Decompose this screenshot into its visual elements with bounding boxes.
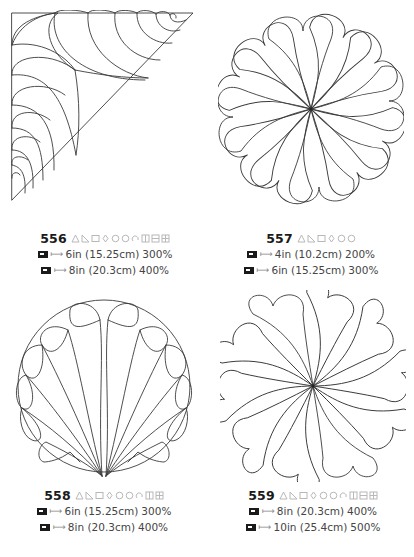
size-label: 6in (15.25cm) [272, 264, 346, 276]
square-icon [95, 491, 104, 500]
size-label: 4in (10.2cm) [275, 248, 342, 260]
square-icon [299, 491, 308, 500]
machine-compatibility-icons [71, 234, 170, 243]
pattern-number: 558 [44, 488, 71, 503]
pattern-557-drawing[interactable] [218, 12, 404, 207]
half-triangle-icon [307, 234, 316, 243]
caption-556: 556 ⟼ 6in (15.25cm) 300% ⟼ 8in (20.3cm) … [10, 230, 200, 278]
sewing-machine-icon [249, 507, 259, 515]
scale-label: 400% [138, 521, 168, 533]
size-option[interactable]: ⟼ 10in (25.4cm) 500% [220, 519, 406, 535]
circle-icon [347, 234, 356, 243]
caption-558: 558 ⟼ 6in (15.25cm) 300% ⟼ 8in (20.3cm) … [8, 487, 200, 535]
pattern-title-row: 558 [8, 487, 200, 503]
scale-label: 500% [350, 521, 380, 533]
size-option[interactable]: ⟼ 6in (15.25cm) 300% [10, 246, 200, 262]
machine-compatibility-icons [75, 491, 164, 500]
grid-icon [349, 491, 358, 500]
rotate-icon [131, 234, 140, 243]
width-arrow-icon: ⟼ [54, 265, 66, 275]
size-option[interactable]: ⟼ 6in (15.25cm) 300% [8, 503, 200, 519]
circle-icon [121, 234, 130, 243]
scale-label: 300% [141, 505, 171, 517]
sewing-machine-icon [40, 523, 50, 531]
machine-compatibility-icons [279, 491, 378, 500]
size-label: 8in (20.3cm) [277, 505, 344, 517]
scale-label: 400% [139, 264, 169, 276]
size-option[interactable]: ⟼ 8in (20.3cm) 400% [10, 262, 200, 278]
size-label: 8in (20.3cm) [69, 264, 136, 276]
pattern-559-drawing[interactable] [220, 290, 406, 482]
sewing-machine-icon [38, 250, 48, 258]
machine-compatibility-icons [297, 234, 356, 243]
grid-icon [161, 234, 170, 243]
circle-icon [125, 491, 134, 500]
width-arrow-icon: ⟼ [260, 249, 272, 259]
circle-icon [111, 234, 120, 243]
circle-icon [329, 491, 338, 500]
size-option[interactable]: ⟼ 4in (10.2cm) 200% [218, 246, 404, 262]
size-label: 6in (15.25cm) [65, 505, 139, 517]
pattern-title-row: 557 [218, 230, 404, 246]
triangle-icon [279, 491, 288, 500]
triangle-icon [297, 234, 306, 243]
width-arrow-icon: ⟼ [51, 249, 63, 259]
diamond-icon [327, 234, 336, 243]
grid-icon [145, 491, 154, 500]
square-icon [91, 234, 100, 243]
square-icon [317, 234, 326, 243]
pattern-title-row: 556 [10, 230, 200, 246]
sewing-machine-icon [244, 266, 254, 274]
pattern-title-row: 559 [220, 487, 406, 503]
width-arrow-icon: ⟼ [259, 522, 271, 532]
size-label: 6in (15.25cm) [66, 248, 140, 260]
circle-icon [337, 234, 346, 243]
sewing-machine-icon [41, 266, 51, 274]
triangle-icon [71, 234, 80, 243]
grid-icon [151, 234, 160, 243]
half-triangle-icon [81, 234, 90, 243]
width-arrow-icon: ⟼ [50, 506, 62, 516]
diamond-icon [101, 234, 110, 243]
caption-559: 559 ⟼ 8in (20.3cm) 400% ⟼ 10in (25.4cm) … [220, 487, 406, 535]
grid-icon [141, 234, 150, 243]
scale-label: 400% [347, 505, 377, 517]
width-arrow-icon: ⟼ [262, 506, 274, 516]
diamond-icon [105, 491, 114, 500]
pattern-556-drawing[interactable] [10, 10, 200, 205]
width-arrow-icon: ⟼ [53, 522, 65, 532]
pattern-number: 559 [248, 488, 275, 503]
size-label: 10in (25.4cm) [274, 521, 348, 533]
grid-icon [369, 491, 378, 500]
size-label: 8in (20.3cm) [68, 521, 135, 533]
rotate-icon [339, 491, 348, 500]
half-triangle-icon [289, 491, 298, 500]
diamond-icon [309, 491, 318, 500]
pattern-558-drawing[interactable] [8, 290, 200, 482]
triangle-icon [75, 491, 84, 500]
sewing-machine-icon [246, 523, 256, 531]
grid-icon [359, 491, 368, 500]
scale-label: 300% [348, 264, 378, 276]
size-option[interactable]: ⟼ 8in (20.3cm) 400% [8, 519, 200, 535]
scale-label: 200% [345, 248, 375, 260]
grid-icon [155, 491, 164, 500]
pattern-number: 557 [266, 231, 293, 246]
size-option[interactable]: ⟼ 8in (20.3cm) 400% [220, 503, 406, 519]
sewing-machine-icon [37, 507, 47, 515]
size-option[interactable]: ⟼ 6in (15.25cm) 300% [218, 262, 404, 278]
rotate-icon [135, 491, 144, 500]
width-arrow-icon: ⟼ [257, 265, 269, 275]
scale-label: 300% [142, 248, 172, 260]
pattern-number: 556 [40, 231, 67, 246]
sewing-machine-icon [247, 250, 257, 258]
half-triangle-icon [85, 491, 94, 500]
caption-557: 557 ⟼ 4in (10.2cm) 200% ⟼ 6in (15.25cm) … [218, 230, 404, 278]
circle-icon [319, 491, 328, 500]
circle-icon [115, 491, 124, 500]
